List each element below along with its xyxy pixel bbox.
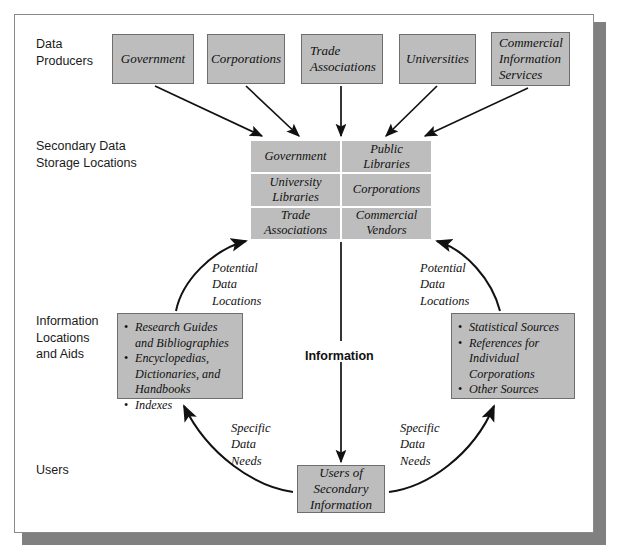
- row-label-information-locations: Information Locations and Aids: [36, 313, 99, 363]
- storage-cell-corporations[interactable]: Corporations: [342, 174, 431, 205]
- list-item: Other Sources: [469, 382, 567, 398]
- information-aids-box-right[interactable]: Statistical Sources References for Indiv…: [451, 313, 575, 399]
- information-aids-list-left: Research Guides and Bibliographies Encyc…: [123, 320, 235, 414]
- storage-cell-commercial-vendors[interactable]: Commercial Vendors: [342, 208, 431, 239]
- annotation-potential-data-locations-right: Potential Data Locations: [420, 260, 469, 309]
- annotation-information-flow-label: Information: [305, 348, 374, 364]
- producer-box-corporations[interactable]: Corporations: [207, 34, 285, 84]
- storage-cell-public-libraries[interactable]: Public Libraries: [342, 141, 431, 172]
- users-of-secondary-information-box[interactable]: Users of Secondary Information: [297, 465, 385, 513]
- list-item: Research Guides and Bibliographies: [135, 320, 235, 351]
- diagram-frame: [14, 14, 594, 533]
- information-aids-list-right: Statistical Sources References for Indiv…: [457, 320, 567, 398]
- list-item: Statistical Sources: [469, 320, 567, 336]
- list-item: References for Individual Corporations: [469, 336, 567, 383]
- diagram-canvas: Data Producers Secondary Data Storage Lo…: [0, 0, 618, 559]
- producer-box-trade-associations[interactable]: Trade Associations: [301, 34, 383, 84]
- producer-box-universities[interactable]: Universities: [399, 34, 476, 84]
- storage-cell-government[interactable]: Government: [251, 141, 340, 172]
- secondary-data-storage-grid: Government Public Libraries University L…: [250, 140, 432, 240]
- annotation-potential-data-locations-left: Potential Data Locations: [212, 260, 261, 309]
- producer-box-commercial-information-services[interactable]: Commercial Information Services: [491, 32, 570, 86]
- storage-cell-university-libraries[interactable]: University Libraries: [251, 174, 340, 205]
- row-label-users: Users: [36, 462, 69, 479]
- annotation-specific-data-needs-left: Specific Data Needs: [231, 420, 271, 469]
- storage-cell-trade-associations[interactable]: Trade Associations: [251, 208, 340, 239]
- information-aids-box-left[interactable]: Research Guides and Bibliographies Encyc…: [117, 313, 243, 399]
- producer-box-government[interactable]: Government: [112, 34, 194, 84]
- row-label-data-producers: Data Producers: [36, 36, 93, 69]
- list-item: Indexes: [135, 398, 235, 414]
- annotation-specific-data-needs-right: Specific Data Needs: [400, 420, 440, 469]
- row-label-secondary-data-storage: Secondary Data Storage Locations: [36, 138, 137, 171]
- list-item: Encyclopedias, Dictionaries, and Handboo…: [135, 351, 235, 398]
